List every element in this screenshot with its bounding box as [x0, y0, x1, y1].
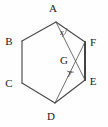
vertex-label-E: E [90, 75, 97, 87]
angle-label-y: y [67, 68, 72, 77]
edge-CD [22, 83, 55, 103]
vertex-label-F: F [90, 36, 96, 48]
vertex-label-D: D [47, 110, 55, 122]
vertex-label-C: C [5, 77, 12, 89]
vertex-label-B: B [5, 35, 12, 47]
point-label-G: G [60, 54, 68, 66]
vertex-label-A: A [49, 2, 57, 14]
geometry-canvas: A B C D E F G x y [0, 0, 108, 127]
angle-label-x: x [59, 28, 64, 37]
edge-AB [22, 22, 56, 41]
edge-DE [55, 80, 85, 103]
geometry-figure: A B C D E F G x y [0, 0, 108, 127]
